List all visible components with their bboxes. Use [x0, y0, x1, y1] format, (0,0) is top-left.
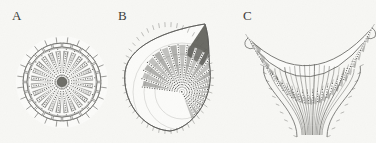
panel-c-label: C [243, 8, 252, 24]
figure-plate: A B C [0, 0, 376, 143]
panel-b: B [110, 0, 230, 143]
panel-a-label: A [12, 8, 22, 24]
panel-a: A [0, 0, 120, 143]
panel-c: C [236, 0, 376, 143]
panel-b-drawing [110, 0, 230, 143]
panel-b-label: B [118, 8, 127, 24]
panel-c-drawing [236, 0, 376, 143]
